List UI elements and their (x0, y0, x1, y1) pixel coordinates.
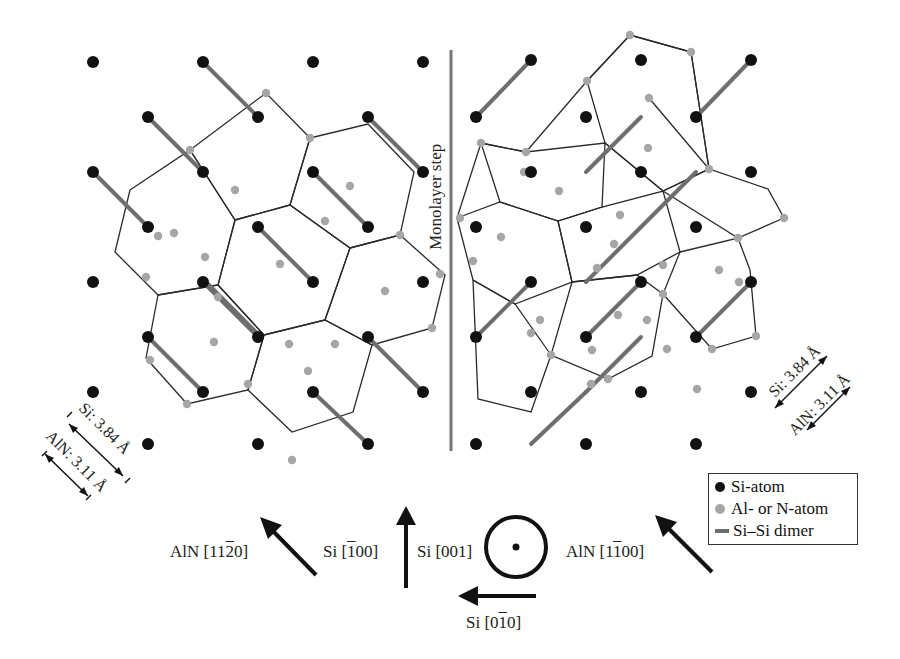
si-atom (307, 166, 319, 178)
al-n-atom (715, 266, 723, 274)
si-si-dimer (696, 282, 751, 337)
si-atom (87, 166, 99, 178)
si-si-dimer (313, 392, 368, 444)
al-n-atom (142, 273, 150, 281)
al-n-atom (663, 345, 671, 353)
al-n-atom (183, 400, 191, 408)
al-n-atom (396, 231, 404, 239)
al-n-atom (644, 144, 652, 152)
label-aln-1120: AlN [1120] (170, 542, 248, 562)
si-atom (197, 166, 209, 178)
si-atom (307, 56, 319, 68)
hexagon-cell (190, 93, 310, 220)
si-atom (745, 54, 757, 66)
si-atom (307, 386, 319, 398)
arrow-si-100 (396, 506, 416, 588)
si-si-dimer (203, 62, 258, 117)
si-atom (362, 221, 374, 233)
hexagon-cell (587, 35, 709, 191)
scale-bar-right: Si: 3.84 Å AlN: 3.11 Å (765, 342, 853, 439)
al-n-atom (536, 316, 544, 324)
hexagon-cell (248, 320, 372, 432)
si-atom (87, 386, 99, 398)
al-n-atom (643, 316, 651, 324)
al-n-atom (210, 338, 218, 346)
si-atom (142, 438, 154, 450)
si-si-dimer (148, 117, 203, 172)
label-si-100: Si [100] (323, 542, 378, 562)
si-si-dimer (586, 282, 641, 337)
al-n-atom (659, 290, 667, 298)
si-atom (307, 276, 319, 288)
al-n-atom (604, 375, 612, 383)
al-n-atom (146, 356, 154, 364)
al-n-atom (780, 214, 788, 222)
al-n-atom (522, 148, 530, 156)
si-atom (470, 331, 482, 343)
si-atom (525, 386, 537, 398)
arrow-aln-1120 (260, 517, 316, 575)
si-atom (525, 54, 537, 66)
al-n-atom (154, 232, 162, 240)
al-n-atom (244, 380, 252, 388)
hexagon-cell (551, 275, 663, 379)
legend-item-si-si-dimer: Si–Si dimer (715, 520, 851, 542)
si-atom (470, 111, 482, 123)
al-n-atom (527, 329, 535, 337)
al-n-atom (645, 94, 653, 102)
si-atom (252, 221, 264, 233)
gray-dot-icon (715, 504, 725, 514)
si-si-dimer (696, 60, 751, 117)
al-n-atom (708, 345, 716, 353)
si-atom (635, 54, 647, 66)
legend: Si-atom Al- or N-atom Si–Si dimer (708, 473, 858, 545)
al-n-atom (614, 311, 622, 319)
label-si-010: Si [010] (466, 613, 521, 633)
si-si-dimer (476, 282, 531, 337)
si-atom (470, 438, 482, 450)
al-n-atom (186, 146, 194, 154)
si-si-dimer (258, 227, 313, 282)
al-n-atom (304, 367, 312, 375)
si-atom (690, 438, 702, 450)
al-n-atom (588, 346, 596, 354)
al-n-atom (477, 139, 485, 147)
si-atom (580, 111, 592, 123)
al-n-atom (201, 253, 209, 261)
al-n-atom (687, 48, 695, 56)
si-atom (580, 438, 592, 450)
al-n-atom (170, 229, 178, 237)
si-atom (525, 166, 537, 178)
si-atom (362, 438, 374, 450)
si-atom (197, 386, 209, 398)
si-atom (252, 111, 264, 123)
si-si-dimer (206, 282, 261, 337)
hexagon-cell (457, 35, 709, 218)
scale-si-right: Si: 3.84 Å (765, 342, 824, 401)
al-n-atom (587, 380, 595, 388)
si-atom (87, 276, 99, 288)
al-n-atom (497, 233, 505, 241)
si-si-dimer (586, 227, 641, 282)
si-si-dimer (148, 337, 203, 392)
label-si-001: Si [001] (417, 542, 472, 562)
al-n-atom (593, 264, 601, 272)
si-si-dimer (93, 172, 148, 227)
al-n-atom (456, 214, 464, 222)
al-n-atom (214, 293, 222, 301)
al-n-atom (610, 240, 618, 248)
arrow-si-010 (458, 586, 536, 606)
al-n-atom (276, 260, 284, 268)
al-n-atom (659, 261, 667, 269)
si-si-dimer (368, 337, 423, 392)
si-atom (197, 56, 209, 68)
scale-bar-left: Si: 3.84 Å AlN: 3.11 Å (42, 399, 134, 500)
al-n-atom (547, 351, 555, 359)
si-atom (417, 276, 429, 288)
al-n-atom (752, 332, 760, 340)
hexagon-cell (481, 143, 605, 221)
si-si-dimer (531, 392, 586, 444)
legend-item-si-atom: Si-atom (715, 476, 851, 498)
al-n-atom (346, 182, 354, 190)
si-atom (635, 166, 647, 178)
